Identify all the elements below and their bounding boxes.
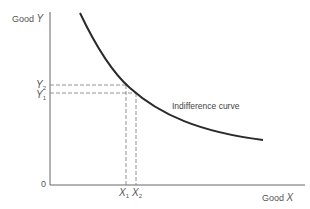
- x1-tick-label: X1: [119, 188, 129, 199]
- y1-sub: 1: [43, 95, 46, 101]
- x-axis-label: Good X: [262, 193, 293, 203]
- x-axis-label-var: X: [287, 192, 294, 203]
- x1-var: X: [119, 187, 126, 198]
- y1-var: Y: [36, 89, 43, 100]
- x1-sub: 1: [126, 193, 129, 199]
- y-axis-label-text: Good: [12, 14, 37, 24]
- x2-tick-label: X2: [132, 188, 142, 199]
- x2-sub: 2: [139, 193, 142, 199]
- y-axis-label: Good Y: [12, 14, 43, 24]
- x2-var: X: [132, 187, 139, 198]
- curve-label: Indifference curve: [172, 102, 239, 111]
- x-axis-label-text: Good: [262, 193, 287, 203]
- y-axis-label-var: Y: [37, 13, 44, 24]
- indifference-curve: [80, 13, 263, 140]
- indifference-diagram: [0, 0, 310, 209]
- origin-label: 0: [41, 180, 46, 189]
- y1-tick-label: Y1: [36, 90, 46, 101]
